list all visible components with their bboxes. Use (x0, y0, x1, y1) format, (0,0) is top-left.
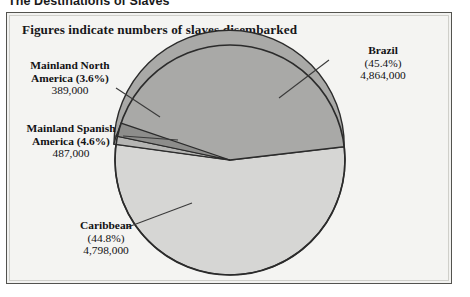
pie-label-mainland-north-america: Mainland North America (3.6%) 389,000 (2, 59, 138, 97)
pie-label-mainland-spanish-america: Mainland Spanish America (4.6%) 487,000 (0, 122, 142, 160)
pie-label-caribbean-percent: (44.8%) (48, 232, 164, 245)
pie-label-mainland-spanish-america-name2: America (4.6%) (0, 135, 142, 148)
pie-label-caribbean: Caribbean (44.8%) 4,798,000 (48, 219, 164, 257)
pie-label-brazil-value: 4,864,000 (330, 69, 436, 82)
pie-label-brazil: Brazil (45.4%) 4,864,000 (330, 44, 436, 82)
pie-label-mainland-north-america-name: Mainland North (2, 59, 138, 72)
pie-label-mainland-north-america-name2: America (3.6%) (2, 72, 138, 85)
pie-label-mainland-spanish-america-name: Mainland Spanish (0, 122, 142, 135)
pie-label-brazil-percent: (45.4%) (330, 57, 436, 70)
figure-page: The Destinations of Slaves Figures indic… (0, 0, 470, 297)
pie-label-caribbean-value: 4,798,000 (48, 244, 164, 257)
pie-label-brazil-name: Brazil (330, 44, 436, 57)
pie-label-caribbean-name: Caribbean (48, 219, 164, 232)
pie-label-mainland-north-america-value: 389,000 (2, 84, 138, 97)
pie-label-mainland-spanish-america-value: 487,000 (0, 147, 142, 160)
